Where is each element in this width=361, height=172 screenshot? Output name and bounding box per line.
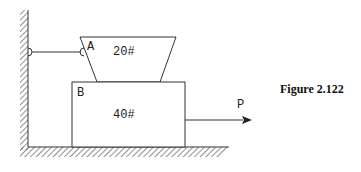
figure-caption: Figure 2.122 [280,82,344,97]
wall [20,10,28,150]
block-a-weight: 20# [113,45,135,59]
cable [28,48,84,56]
floor [20,147,229,157]
force-arrow [185,116,252,124]
block-b-label: B [77,86,84,100]
block-a [80,37,176,82]
block-a-label: A [87,40,95,54]
force-label: P [237,98,244,112]
block-b-weight: 40# [113,108,135,122]
